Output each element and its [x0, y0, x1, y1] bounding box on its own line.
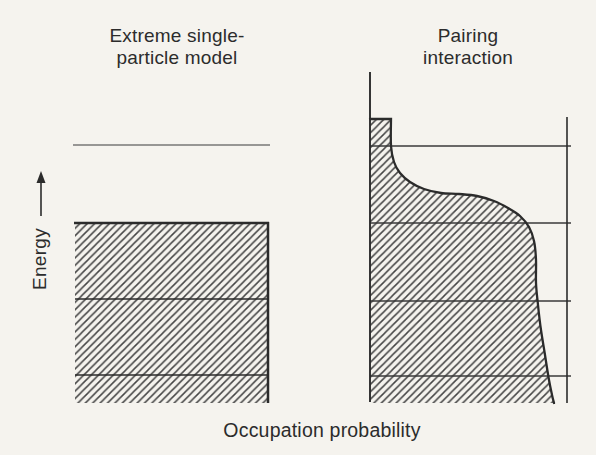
right-panel-graphic — [370, 72, 571, 403]
x-axis-label: Occupation probability — [172, 419, 472, 442]
left-panel-title-line2: particle model — [77, 47, 277, 69]
left-panel-title: Extreme single- particle model — [77, 25, 277, 68]
figure-drawing — [0, 0, 596, 455]
left-panel-graphic — [73, 145, 270, 403]
y-axis-label: Energy — [29, 228, 51, 290]
left-occupied-region — [75, 223, 268, 403]
figure: Extreme single- particle model Pairing i… — [0, 0, 596, 455]
right-occupied-region — [370, 119, 554, 403]
energy-arrow-head — [37, 171, 46, 183]
right-panel-title-line1: Pairing — [368, 25, 568, 47]
right-panel-title: Pairing interaction — [368, 25, 568, 68]
left-panel-title-line1: Extreme single- — [77, 25, 277, 47]
right-panel-title-line2: interaction — [368, 47, 568, 69]
energy-arrow — [37, 171, 46, 216]
